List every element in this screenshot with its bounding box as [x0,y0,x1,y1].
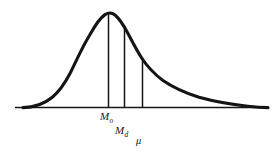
median-label-subscript: d [124,130,128,139]
skewed-distribution-figure: Mo Md μ [0,0,280,159]
mode-label-symbol: M [100,110,109,122]
median-label: Md [115,125,128,139]
mode-label: Mo [100,111,113,125]
mode-label-subscript: o [109,116,113,125]
mean-label: μ [136,136,141,147]
mean-label-symbol: μ [136,135,141,146]
median-label-symbol: M [115,124,124,136]
density-curve [23,13,268,107]
